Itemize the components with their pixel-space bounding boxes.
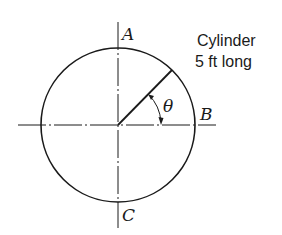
- label-theta: θ: [163, 96, 173, 116]
- note-line-2: 5 ft long: [195, 53, 252, 70]
- label-a: A: [120, 24, 134, 44]
- note-line-1: Cylinder: [197, 32, 256, 49]
- label-c: C: [122, 205, 135, 225]
- cylinder-diagram: A B C θ Cylinder 5 ft long: [0, 0, 282, 235]
- arrow-head-bottom-icon: [159, 117, 164, 125]
- label-b: B: [199, 104, 213, 124]
